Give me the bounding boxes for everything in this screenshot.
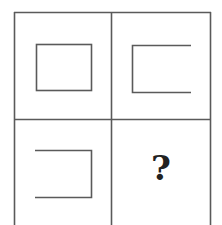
puzzle-grid	[0, 0, 222, 225]
cell-top-left-closed-rectangle	[37, 45, 92, 91]
cell-bottom-left-open-left-rectangle	[35, 151, 92, 198]
question-mark: ?	[141, 146, 181, 190]
cell-top-right-open-right-rectangle	[133, 46, 192, 93]
